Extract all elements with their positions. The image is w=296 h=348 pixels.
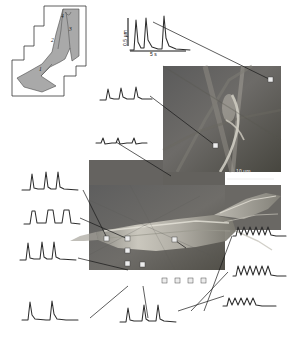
trace-bottom-mid-triple bbox=[118, 298, 180, 326]
measurement-point-9[interactable] bbox=[162, 278, 167, 283]
measurement-point-2[interactable] bbox=[213, 143, 218, 148]
measurement-point-6[interactable] bbox=[125, 261, 130, 266]
measurement-point-1[interactable] bbox=[268, 77, 273, 82]
measurement-point-8[interactable] bbox=[172, 237, 177, 242]
trace-right-mid-oscillation bbox=[232, 262, 290, 280]
trace-upper-left-flat bbox=[94, 132, 150, 148]
measurement-point-11[interactable] bbox=[188, 278, 193, 283]
figure-canvas: 1 2 3 4 0.5 µm 5 s 10 µm bbox=[0, 0, 296, 348]
trace-left-upper-pair bbox=[20, 168, 82, 194]
trace-left-lower-triple bbox=[18, 238, 80, 264]
trace-left-mid-plateau bbox=[22, 202, 84, 228]
measurement-point-4[interactable] bbox=[125, 236, 130, 241]
trace-right-upper-oscillation bbox=[232, 222, 290, 240]
measurement-point-10[interactable] bbox=[175, 278, 180, 283]
measurement-point-7[interactable] bbox=[140, 262, 145, 267]
measurement-point-3[interactable] bbox=[104, 236, 109, 241]
trace-right-lower-oscillation bbox=[222, 292, 280, 310]
trace-upper-left-small bbox=[98, 82, 156, 104]
measurement-point-12[interactable] bbox=[201, 278, 206, 283]
measurement-point-5[interactable] bbox=[125, 248, 130, 253]
trace-bottom-left-pair bbox=[20, 296, 82, 324]
